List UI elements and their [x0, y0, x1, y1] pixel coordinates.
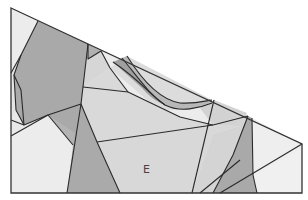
dissection-diagram: E [0, 0, 308, 200]
region-label-e: E [143, 163, 150, 176]
regions [11, 8, 302, 193]
